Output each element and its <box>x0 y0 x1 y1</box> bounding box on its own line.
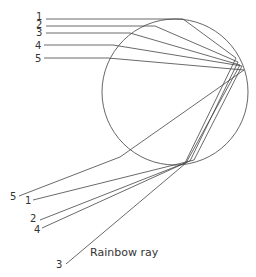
internal-refracted-rays <box>108 19 244 70</box>
water-droplet <box>102 19 248 165</box>
label-out-2: 2 <box>30 213 36 224</box>
label-out-3: 3 <box>56 259 62 270</box>
outgoing-ray-labels: 5 1 2 4 3 <box>10 191 62 270</box>
internal-reflected-rays <box>120 58 244 163</box>
incoming-ray-labels: 1 2 3 4 5 <box>35 11 42 64</box>
label-in-4: 4 <box>35 40 41 51</box>
label-in-5: 5 <box>35 53 41 64</box>
label-in-3: 3 <box>36 27 42 38</box>
label-out-1: 1 <box>25 195 31 206</box>
caption-rainbow-ray: Rainbow ray <box>90 246 159 259</box>
rainbow-ray-diagram: 1 2 3 4 5 5 1 2 4 3 Rainbow ray <box>0 0 256 277</box>
label-out-5: 5 <box>10 191 16 202</box>
label-out-4: 4 <box>34 224 40 235</box>
